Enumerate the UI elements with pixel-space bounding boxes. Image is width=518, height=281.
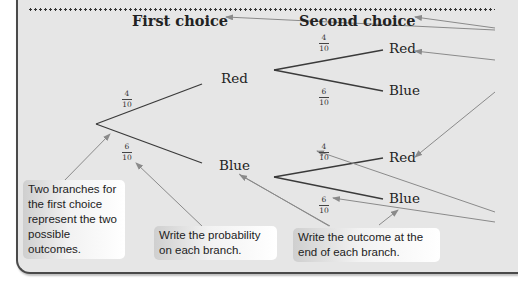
denominator: 10 [122,101,132,109]
annotation-write-probability: Write the probability on each branch. [154,226,277,260]
denominator: 10 [319,45,329,53]
denominator: 10 [122,154,132,162]
outcome-first-blue: Blue [219,157,250,173]
outcome-blue-red: Red [389,149,416,165]
outcome-blue-blue: Blue [389,190,420,206]
heading-second-choice: Second choice [299,12,416,29]
annotation-write-outcome: Write the outcome at the end of each bra… [293,228,440,262]
outcome-red-red: Red [389,40,416,56]
probability-blue-red: 4 10 [319,143,329,162]
denominator: 10 [319,99,329,107]
denominator: 10 [319,154,329,162]
numerator: 6 [322,88,327,96]
second-stage-branches [274,50,383,199]
first-stage-branches [96,84,202,163]
outcome-red-blue: Blue [389,82,420,98]
numerator: 4 [322,34,327,42]
numerator: 4 [125,90,130,98]
numerator: 4 [322,143,327,151]
outcome-first-red: Red [221,70,248,86]
annotation-first-choice-branches: Two branches for the first choice repres… [23,180,125,259]
probability-blue-blue: 6 10 [319,196,329,215]
probability-red-red: 4 10 [319,34,329,53]
numerator: 6 [125,143,130,151]
denominator: 10 [319,207,329,215]
numerator: 6 [322,196,327,204]
heading-first-choice: First choice [132,12,228,29]
probability-first-red: 4 10 [122,90,132,109]
probability-red-blue: 6 10 [319,88,329,107]
probability-first-blue: 6 10 [122,143,132,162]
